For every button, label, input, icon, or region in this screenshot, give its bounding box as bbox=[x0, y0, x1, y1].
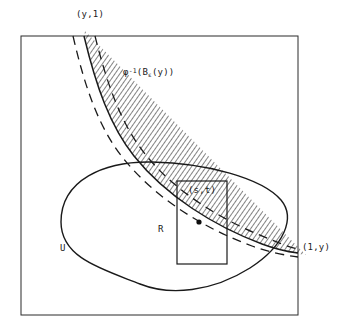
point-st-marker bbox=[196, 219, 201, 224]
label-rectangle-R: R bbox=[158, 224, 164, 234]
ball-open-paren: (B bbox=[137, 67, 148, 77]
preimage-band bbox=[0, 0, 344, 336]
ball-argument: (y)) bbox=[152, 67, 174, 77]
label-point-st: (s,t) bbox=[188, 185, 216, 195]
label-right-corner-point: (1,y) bbox=[302, 242, 330, 252]
label-region-U: U bbox=[60, 243, 66, 253]
phi-exponent: -1 bbox=[129, 67, 137, 75]
label-preimage-band: φ-1(Bε(y)) bbox=[123, 67, 174, 78]
math-diagram-canvas bbox=[0, 0, 344, 336]
label-top-corner-point: (y,1) bbox=[76, 9, 104, 19]
